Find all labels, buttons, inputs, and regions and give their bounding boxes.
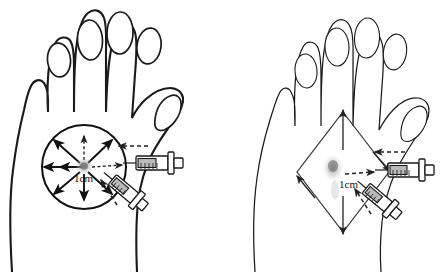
right-hand-diagram: 1cm [223,0,445,275]
panel-left: 1cm [0,0,222,275]
syringe-thumb-rest [425,165,434,175]
syringe-plunger [390,166,407,175]
syringe-collar [168,152,174,174]
panel-right: 1cm [223,0,445,275]
syringe-collar [419,159,425,181]
nail-index-finger [381,32,409,71]
scale-label-1cm: 1cm [74,172,93,184]
syringe-thumb-rest [174,158,183,168]
scale-label-1cm: 1cm [339,178,358,190]
nail-index-finger [135,27,164,66]
nail-middle-finger [106,12,133,55]
left-hand-diagram: 1cm [0,0,222,275]
figure-canvas: 1cm [0,0,445,275]
